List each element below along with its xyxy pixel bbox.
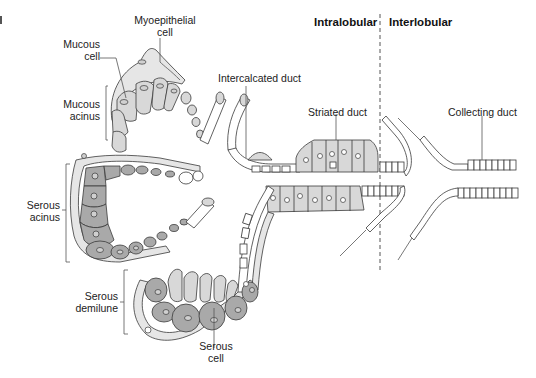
label-serous-cell: Serous cell [196,340,236,364]
intercalated-duct [228,148,300,172]
striated-duct-upper [296,116,411,176]
label-mucous-cell: Mucous cell [50,38,100,62]
label-intercalated-duct: Intercalcated duct [218,72,301,84]
corner-fragment [0,16,2,24]
label-serous-demilune: Serous demilune [66,290,118,314]
striated-duct-lower [266,186,405,256]
mucous-acinus [111,49,203,153]
collecting-duct [398,118,518,260]
label-mucous-acinus: Mucous acinus [50,98,100,122]
label-serous-acinus: Serous acinus [10,199,60,223]
intercalated-duct-upper [200,92,250,150]
label-myoepithelial-cell: Myoepithelial cell [130,14,200,38]
label-striated-duct: Striated duct [308,106,367,118]
region-label-interlobular: Interlobular [389,16,452,28]
serous-acinus [70,154,214,263]
label-collecting-duct: Collecting duct [448,106,517,118]
region-label-intralobular: Intralobular [314,16,377,28]
